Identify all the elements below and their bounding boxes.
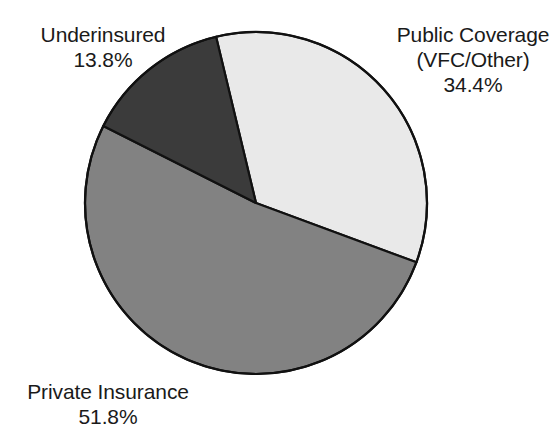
slice-label-public-coverage-percent: 34.4% bbox=[388, 72, 558, 97]
slice-label-public-coverage-name: Public Coverage bbox=[388, 22, 558, 47]
slice-label-underinsured: Underinsured 13.8% bbox=[10, 22, 196, 72]
slice-label-private-insurance-percent: 51.8% bbox=[8, 404, 208, 429]
pie-chart-figure: Underinsured 13.8% Public Coverage (VFC/… bbox=[0, 0, 558, 447]
slice-label-underinsured-name: Underinsured bbox=[10, 22, 196, 47]
slice-label-public-coverage: Public Coverage (VFC/Other) 34.4% bbox=[388, 22, 558, 97]
slice-label-private-insurance: Private Insurance 51.8% bbox=[8, 379, 208, 429]
slice-label-underinsured-percent: 13.8% bbox=[10, 47, 196, 72]
slice-label-private-insurance-name: Private Insurance bbox=[8, 379, 208, 404]
pie-slices bbox=[85, 32, 427, 374]
slice-label-public-coverage-subtitle: (VFC/Other) bbox=[388, 47, 558, 72]
